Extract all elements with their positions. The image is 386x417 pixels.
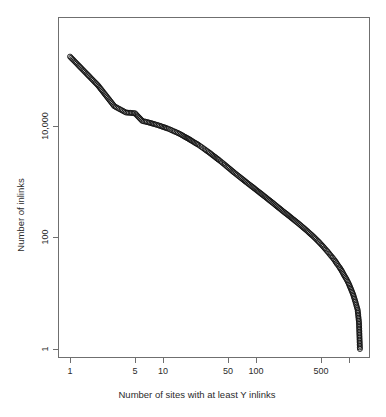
x-tick-label-500: 500 (313, 366, 328, 376)
y-tick-label-10000: 10,000 (40, 112, 50, 140)
data-points-group (68, 54, 363, 351)
x-tick-label-50: 50 (223, 366, 233, 376)
x-axis-ticks (70, 358, 349, 364)
plot-frame (59, 18, 370, 358)
x-axis-title: Number of sites with at least Y inlinks (119, 389, 276, 400)
x-tick-label-100: 100 (248, 366, 263, 376)
y-axis-ticks (53, 126, 59, 349)
y-axis-title: Number of inlinks (15, 178, 26, 252)
x-tick-label-1: 1 (67, 366, 72, 376)
y-tick-label-100: 100 (40, 229, 50, 244)
x-tick-label-5: 5 (132, 366, 137, 376)
scatter-plot-canvas: 10,000 100 1 1 5 10 50 100 500 Number of… (0, 0, 386, 417)
y-tick-label-1: 1 (40, 346, 50, 351)
x-tick-label-10: 10 (158, 366, 168, 376)
chart-figure: 10,000 100 1 1 5 10 50 100 500 Number of… (0, 0, 386, 417)
